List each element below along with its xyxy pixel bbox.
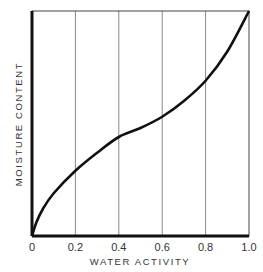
x-tick-label: 0.2 — [68, 241, 83, 253]
x-tick-label: 0 — [29, 241, 35, 253]
vertical-gridlines — [75, 11, 205, 236]
y-axis-label: MOISTURE CONTENT — [13, 62, 24, 186]
x-tick-labels: 00.20.40.60.81.0 — [29, 241, 257, 253]
x-tick-label: 0.6 — [155, 241, 170, 253]
x-tick-label: 1.0 — [241, 241, 256, 253]
x-axis-label: WATER ACTIVITY — [90, 256, 191, 267]
x-tick-label: 0.4 — [111, 241, 126, 253]
plot-frame — [32, 11, 249, 236]
sorption-isotherm-chart: 00.20.40.60.81.0 WATER ACTIVITY MOISTURE… — [0, 0, 263, 272]
isotherm-curve — [32, 11, 249, 236]
x-tick-label: 0.8 — [198, 241, 213, 253]
